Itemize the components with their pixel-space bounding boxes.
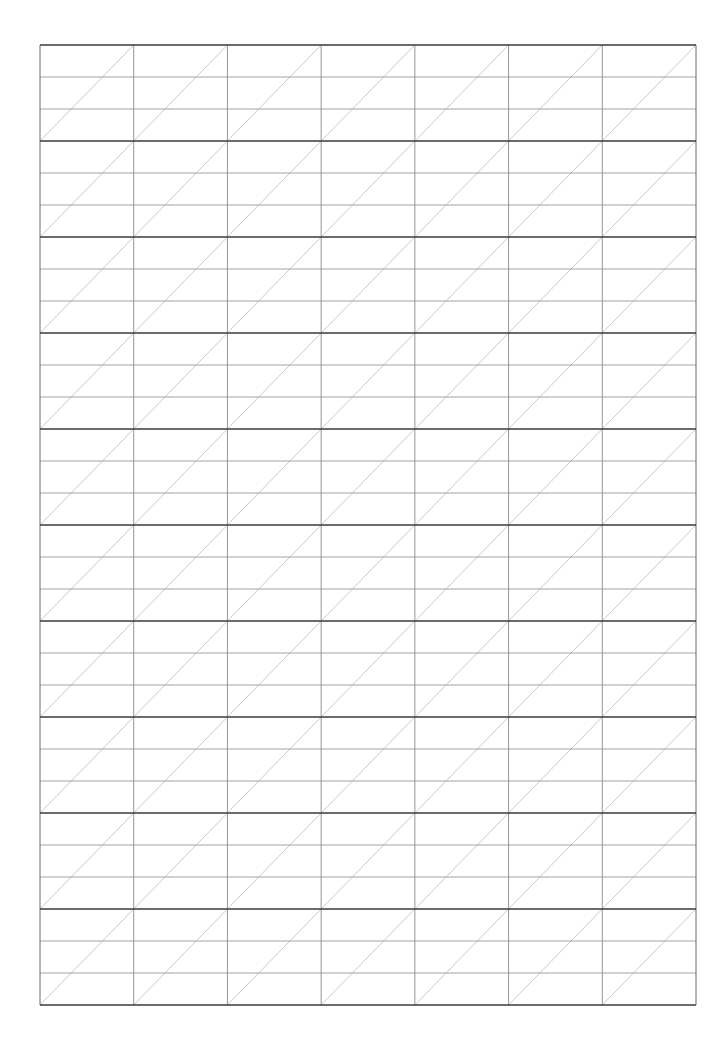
cell-diagonal bbox=[134, 429, 228, 525]
cell-diagonal bbox=[415, 717, 509, 813]
cell-diagonal bbox=[509, 45, 603, 141]
cell-diagonal bbox=[134, 525, 228, 621]
cell-diagonal bbox=[602, 45, 696, 141]
cell-diagonal bbox=[227, 621, 321, 717]
cell-diagonal bbox=[321, 141, 415, 237]
cell-diagonal bbox=[509, 141, 603, 237]
cell-diagonal bbox=[602, 621, 696, 717]
cell-diagonal bbox=[40, 813, 134, 909]
calligraphy-grid bbox=[0, 0, 728, 1051]
cell-diagonal bbox=[40, 717, 134, 813]
cell-diagonal bbox=[602, 141, 696, 237]
cell-diagonal bbox=[321, 813, 415, 909]
cell-diagonal bbox=[40, 237, 134, 333]
cell-diagonal bbox=[227, 333, 321, 429]
cell-diagonal bbox=[415, 909, 509, 1005]
cell-diagonal bbox=[134, 141, 228, 237]
cell-diagonal bbox=[321, 909, 415, 1005]
cell-diagonal bbox=[602, 525, 696, 621]
cell-diagonal bbox=[509, 333, 603, 429]
cell-diagonal bbox=[134, 813, 228, 909]
cell-diagonal bbox=[134, 909, 228, 1005]
cell-diagonal bbox=[509, 429, 603, 525]
cell-diagonal bbox=[602, 237, 696, 333]
cell-diagonal bbox=[40, 333, 134, 429]
cell-diagonal bbox=[134, 717, 228, 813]
practice-sheet bbox=[0, 0, 728, 1051]
cell-diagonal bbox=[321, 525, 415, 621]
cell-diagonal bbox=[415, 237, 509, 333]
cell-diagonal bbox=[602, 429, 696, 525]
cell-diagonal bbox=[415, 141, 509, 237]
cell-diagonal bbox=[227, 141, 321, 237]
cell-diagonal bbox=[40, 45, 134, 141]
cell-diagonal bbox=[227, 237, 321, 333]
cell-diagonal bbox=[227, 525, 321, 621]
cell-diagonal bbox=[227, 429, 321, 525]
cell-diagonal bbox=[509, 717, 603, 813]
cell-diagonal bbox=[40, 909, 134, 1005]
cell-diagonal bbox=[509, 909, 603, 1005]
cell-diagonal bbox=[602, 813, 696, 909]
cell-diagonal bbox=[321, 621, 415, 717]
cell-diagonal bbox=[415, 429, 509, 525]
cell-diagonal bbox=[227, 717, 321, 813]
cell-diagonal bbox=[321, 429, 415, 525]
cell-diagonal bbox=[227, 813, 321, 909]
cell-diagonal bbox=[602, 909, 696, 1005]
cell-diagonal bbox=[415, 333, 509, 429]
cell-diagonal bbox=[602, 717, 696, 813]
cell-diagonal bbox=[415, 45, 509, 141]
cell-diagonal bbox=[40, 525, 134, 621]
cell-diagonal bbox=[134, 621, 228, 717]
cell-diagonal bbox=[40, 621, 134, 717]
cell-diagonal bbox=[134, 45, 228, 141]
cell-diagonal bbox=[321, 333, 415, 429]
cell-diagonal bbox=[321, 717, 415, 813]
cell-diagonal bbox=[134, 333, 228, 429]
cell-diagonal bbox=[415, 813, 509, 909]
cell-diagonal bbox=[509, 813, 603, 909]
cell-diagonal bbox=[509, 237, 603, 333]
cell-diagonal bbox=[40, 141, 134, 237]
cell-diagonal bbox=[415, 621, 509, 717]
cell-diagonal bbox=[227, 45, 321, 141]
cell-diagonal bbox=[415, 525, 509, 621]
cell-diagonal bbox=[321, 45, 415, 141]
cell-diagonal bbox=[321, 237, 415, 333]
cell-diagonal bbox=[602, 333, 696, 429]
cell-diagonal bbox=[134, 237, 228, 333]
cell-diagonal bbox=[227, 909, 321, 1005]
cell-diagonal bbox=[509, 525, 603, 621]
cell-diagonal bbox=[509, 621, 603, 717]
cell-diagonal bbox=[40, 429, 134, 525]
